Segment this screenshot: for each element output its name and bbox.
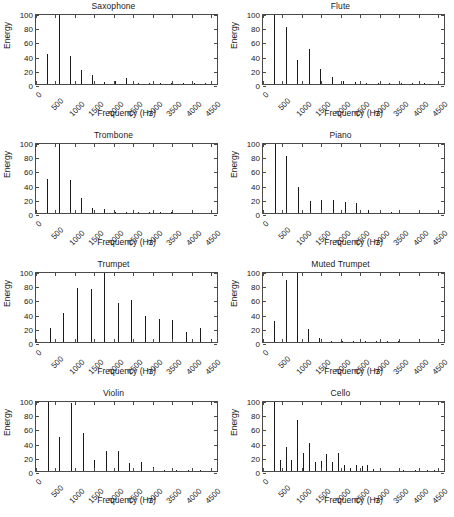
spectral-line	[115, 212, 116, 213]
x-axis-tick	[94, 210, 95, 213]
spectral-line	[412, 83, 413, 84]
spectral-line	[297, 273, 298, 342]
x-axis-tick-top	[263, 402, 264, 405]
y-axis-tick-right	[214, 144, 217, 145]
y-axis-tick-right	[214, 86, 217, 87]
y-axis-tick	[263, 473, 266, 474]
spectral-line	[319, 338, 320, 342]
y-axis-title: Energy	[2, 22, 12, 49]
x-axis-tick-label: 0	[34, 90, 44, 100]
spectral-line	[160, 212, 161, 213]
subplot-panel: Piano02040608010005001000150020002500300…	[227, 129, 454, 258]
x-axis-title: Frequency (Hz)	[262, 237, 445, 247]
x-axis-tick	[36, 210, 37, 213]
y-axis-tick	[36, 473, 39, 474]
y-axis-tick-right	[214, 316, 217, 317]
x-axis-title: Frequency (Hz)	[35, 495, 218, 505]
y-axis-tick	[263, 301, 266, 302]
spectral-line	[365, 341, 366, 342]
x-axis-tick	[133, 210, 134, 213]
x-axis-tick	[321, 210, 322, 213]
y-axis-tick-right	[441, 273, 444, 274]
plot-axes: 0204060801000500100015002000250030003500…	[262, 143, 445, 214]
spectral-line	[274, 402, 275, 471]
y-axis-tick-label: 20	[24, 454, 33, 463]
y-axis-tick-label: 100	[247, 140, 260, 149]
x-axis-tick	[36, 339, 37, 342]
x-axis-tick	[133, 339, 134, 342]
x-axis-tick	[419, 81, 420, 84]
y-axis-title: Energy	[2, 280, 12, 307]
spectral-line	[188, 470, 189, 471]
subplot-panel: Flute02040608010005001000150020002500300…	[227, 0, 454, 129]
spectral-line	[126, 212, 127, 213]
x-axis-tick	[55, 339, 56, 342]
y-axis-tick-right	[441, 445, 444, 446]
spectral-line	[141, 462, 142, 471]
plot-data-area	[263, 15, 444, 84]
y-axis-tick-right	[441, 86, 444, 87]
spectral-line	[362, 466, 363, 471]
y-axis-tick-right	[214, 215, 217, 216]
spectral-line	[131, 300, 132, 342]
x-axis-tick-top	[153, 402, 154, 405]
x-axis-tick-top	[360, 144, 361, 147]
y-axis-tick	[36, 172, 39, 173]
spectral-line	[81, 70, 82, 84]
x-axis-tick	[302, 468, 303, 471]
spectral-line	[77, 288, 78, 342]
y-axis-tick	[263, 316, 266, 317]
x-axis-tick-top	[172, 15, 173, 18]
x-axis-tick-top	[55, 402, 56, 405]
y-axis-tick	[263, 445, 266, 446]
y-axis-tick	[36, 158, 39, 159]
y-axis-tick-label: 0	[256, 469, 260, 478]
y-axis-tick-label: 0	[256, 82, 260, 91]
spectral-line	[331, 341, 332, 342]
x-axis-tick	[133, 468, 134, 471]
x-axis-tick	[282, 210, 283, 213]
plot-data-area	[36, 144, 217, 213]
y-axis-tick-right	[214, 273, 217, 274]
y-axis-tick-label: 40	[24, 311, 33, 320]
y-axis-tick-label: 100	[20, 140, 33, 149]
x-axis-title: Frequency (Hz)	[35, 366, 218, 376]
spectral-line	[280, 460, 281, 471]
x-axis-tick	[153, 468, 154, 471]
spectral-line	[286, 156, 287, 213]
spectral-line	[427, 470, 428, 471]
y-axis-tick-label: 60	[251, 297, 260, 306]
x-axis-title: Frequency (Hz)	[262, 495, 445, 505]
x-axis-tick	[36, 468, 37, 471]
spectra-figure: Saxophone0204060801000500100015002000250…	[0, 0, 454, 517]
spectral-line	[387, 341, 388, 342]
y-axis-tick	[36, 416, 39, 417]
spectral-line	[70, 180, 71, 213]
x-axis-tick-label: 0	[261, 90, 271, 100]
y-axis-tick-label: 80	[24, 283, 33, 292]
spectral-line	[126, 78, 127, 84]
x-axis-tick-top	[172, 273, 173, 276]
spectral-line	[286, 27, 287, 84]
x-axis-tick	[419, 468, 420, 471]
x-axis-tick-top	[114, 15, 115, 18]
spectral-line	[59, 15, 60, 84]
x-axis-tick-top	[192, 273, 193, 276]
spectral-line	[118, 303, 119, 342]
spectral-line	[434, 470, 435, 471]
x-axis-title: Frequency (Hz)	[262, 108, 445, 118]
x-axis-tick	[211, 339, 212, 342]
y-axis-tick-label: 20	[251, 196, 260, 205]
spectral-line	[200, 328, 201, 342]
x-axis-tick-label: 0	[34, 219, 44, 229]
y-axis-tick	[36, 330, 39, 331]
y-axis-tick	[263, 58, 266, 59]
x-axis-tick	[341, 468, 342, 471]
x-axis-tick	[172, 468, 173, 471]
x-axis-tick-top	[380, 144, 381, 147]
x-axis-tick-top	[153, 15, 154, 18]
y-axis-tick-right	[441, 144, 444, 145]
spectral-line	[309, 443, 310, 471]
x-axis-tick	[75, 468, 76, 471]
spectral-line	[92, 75, 93, 84]
